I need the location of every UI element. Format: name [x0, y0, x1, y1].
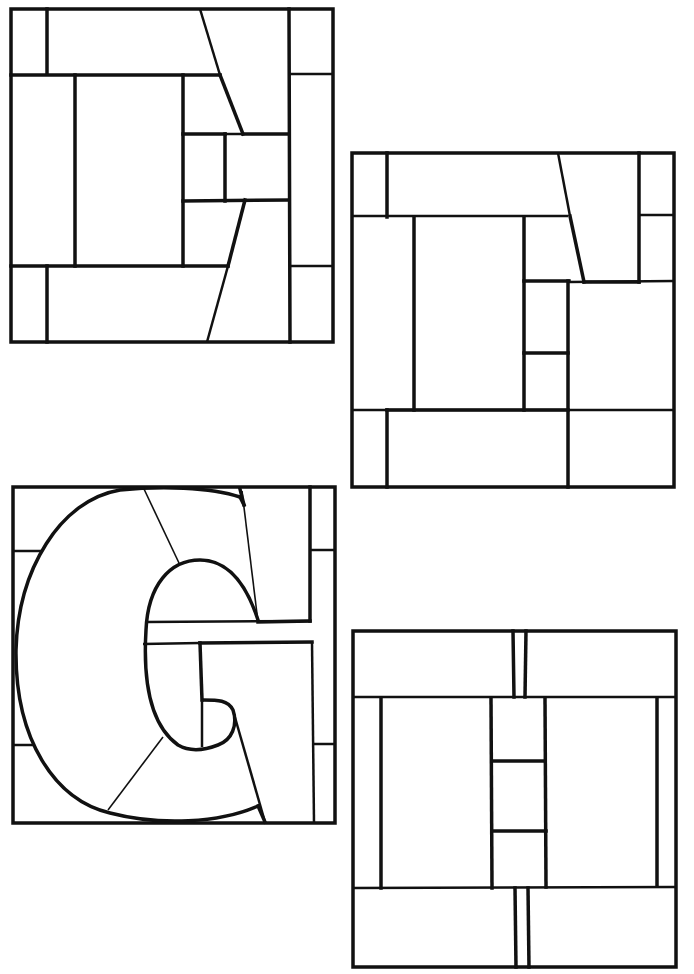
panel-4: [353, 631, 676, 967]
panel-2: [352, 153, 674, 487]
diagram-canvas: [0, 0, 694, 974]
panel-3: [13, 487, 335, 823]
panel-1: [11, 9, 333, 342]
